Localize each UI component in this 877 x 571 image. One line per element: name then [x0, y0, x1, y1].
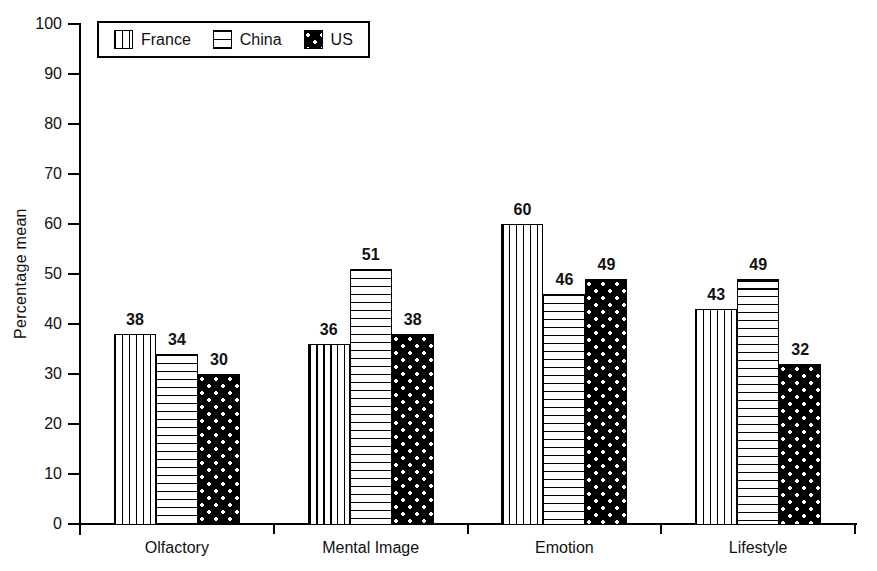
- bar-chart-figure: Percentage mean 0102030405060708090100 F…: [0, 0, 877, 571]
- black-dots-swatch-icon: [304, 30, 323, 49]
- y-tick-label: 50: [0, 265, 62, 283]
- bar-group-emotion: 604649: [468, 224, 662, 524]
- bar-value-label: 34: [168, 331, 186, 349]
- bar-france-olfactory: 38: [114, 334, 156, 524]
- y-tick: [68, 373, 80, 375]
- bar-us-mental-image: 38: [392, 334, 434, 524]
- x-tick: [79, 525, 81, 534]
- plot-area: FranceChinaUS 383430365138604649434932: [80, 24, 855, 524]
- legend-label: China: [240, 31, 282, 49]
- bar-group-lifestyle: 434932: [661, 279, 855, 524]
- bar-china-emotion: 46: [543, 294, 585, 524]
- y-tick-label: 20: [0, 415, 62, 433]
- y-tick-label: 60: [0, 215, 62, 233]
- y-tick: [68, 323, 80, 325]
- bar-china-mental-image: 51: [350, 269, 392, 524]
- bar-value-label: 60: [513, 201, 531, 219]
- bar-us-olfactory: 30: [198, 374, 240, 524]
- y-tick: [68, 473, 80, 475]
- y-tick-label: 10: [0, 465, 62, 483]
- vertical-stripes-swatch-icon: [114, 30, 133, 49]
- bar-value-label: 46: [555, 271, 573, 289]
- legend-item-china: China: [213, 30, 282, 49]
- horizontal-stripes-swatch-icon: [213, 30, 232, 49]
- bar-group-mental-image: 365138: [274, 269, 468, 524]
- bar-value-label: 49: [749, 256, 767, 274]
- y-tick-label: 0: [0, 515, 62, 533]
- y-tick: [68, 173, 80, 175]
- y-tick-label: 70: [0, 165, 62, 183]
- x-axis-label-lifestyle: Lifestyle: [661, 539, 855, 557]
- x-axis-label-emotion: Emotion: [468, 539, 662, 557]
- x-axis-label-mental-image: Mental Image: [274, 539, 468, 557]
- bar-value-label: 38: [126, 311, 144, 329]
- legend-label: US: [331, 31, 353, 49]
- x-tick: [660, 525, 662, 534]
- bar-value-label: 38: [404, 311, 422, 329]
- bar-value-label: 49: [597, 256, 615, 274]
- x-tick: [273, 525, 275, 534]
- x-axis-label-olfactory: Olfactory: [80, 539, 274, 557]
- y-tick-label: 80: [0, 115, 62, 133]
- y-tick-label: 100: [0, 15, 62, 33]
- y-tick: [68, 73, 80, 75]
- legend-label: France: [141, 31, 191, 49]
- y-tick: [68, 123, 80, 125]
- bar-france-lifestyle: 43: [695, 309, 737, 524]
- bar-china-lifestyle: 49: [737, 279, 779, 524]
- x-tick: [854, 525, 856, 534]
- y-tick-label: 40: [0, 315, 62, 333]
- bar-us-lifestyle: 32: [779, 364, 821, 524]
- y-tick: [68, 273, 80, 275]
- x-axis-labels: OlfactoryMental ImageEmotionLifestyle: [80, 539, 855, 557]
- x-tick: [467, 525, 469, 534]
- y-tick: [68, 223, 80, 225]
- bar-china-olfactory: 34: [156, 354, 198, 524]
- bar-value-label: 36: [320, 321, 338, 339]
- legend-item-us: US: [304, 30, 353, 49]
- y-tick-label: 90: [0, 65, 62, 83]
- legend-item-france: France: [114, 30, 191, 49]
- y-tick: [68, 23, 80, 25]
- bar-value-label: 51: [362, 246, 380, 264]
- legend: FranceChinaUS: [97, 21, 370, 58]
- bar-value-label: 43: [707, 286, 725, 304]
- bar-france-mental-image: 36: [308, 344, 350, 524]
- bar-groups: 383430365138604649434932: [80, 24, 855, 524]
- bar-value-label: 32: [791, 341, 809, 359]
- y-tick: [68, 423, 80, 425]
- bar-us-emotion: 49: [585, 279, 627, 524]
- bar-group-olfactory: 383430: [80, 334, 274, 524]
- bar-france-emotion: 60: [501, 224, 543, 524]
- bar-value-label: 30: [210, 351, 228, 369]
- y-tick-label: 30: [0, 365, 62, 383]
